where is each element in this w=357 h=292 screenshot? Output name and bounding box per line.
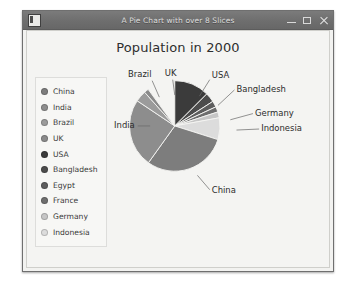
legend-swatch-icon xyxy=(41,88,48,95)
application-window: A Pie Chart with over 8 Slices Populatio… xyxy=(22,10,334,272)
legend-swatch-icon xyxy=(41,166,48,173)
pie-label-leader-line xyxy=(230,114,253,120)
legend-swatch-icon xyxy=(41,135,48,142)
close-button[interactable] xyxy=(319,16,329,25)
minimize-button[interactable] xyxy=(287,16,296,25)
legend-item-label: India xyxy=(53,103,72,112)
maximize-button[interactable] xyxy=(303,16,312,25)
pie-label-leader-line xyxy=(197,175,209,189)
window-controls xyxy=(287,11,329,29)
window-client-area: Population in 2000 ChinaIndiaBrazilUKUSA… xyxy=(26,30,330,268)
pie-slice-label: Germany xyxy=(255,108,294,118)
window-icon xyxy=(28,14,41,27)
legend-item[interactable]: Germany xyxy=(41,209,102,225)
legend-item[interactable]: Egypt xyxy=(41,178,102,194)
pie-chart-plot: BrazilUKUSABangladeshGermanyIndonesiaInd… xyxy=(111,65,327,263)
legend-item-label: China xyxy=(53,87,75,96)
pie-label-leader-line xyxy=(218,90,234,105)
legend-swatch-icon xyxy=(41,104,48,111)
legend-item-label: Bangladesh xyxy=(53,165,98,174)
chart-title: Population in 2000 xyxy=(27,40,329,55)
chart-legend: ChinaIndiaBrazilUKUSABangladeshEgyptFran… xyxy=(35,77,107,247)
pie-slice-label: Bangladesh xyxy=(236,84,285,94)
pie-slice-label: UK xyxy=(165,68,177,78)
legend-item[interactable]: France xyxy=(41,193,102,209)
legend-item[interactable]: Indonesia xyxy=(41,224,102,240)
legend-swatch-icon xyxy=(41,151,48,158)
pie-label-leader-line xyxy=(152,81,159,97)
pie-label-leader-line xyxy=(236,129,259,130)
legend-item[interactable]: Bangladesh xyxy=(41,162,102,178)
legend-item[interactable]: India xyxy=(41,100,102,116)
legend-swatch-icon xyxy=(41,119,48,126)
legend-item[interactable]: USA xyxy=(41,146,102,162)
pie-slice-label: India xyxy=(114,120,135,130)
legend-item-label: Brazil xyxy=(53,118,74,127)
pie-chart-svg: BrazilUKUSABangladeshGermanyIndonesiaInd… xyxy=(111,65,327,263)
legend-item-label: France xyxy=(53,196,78,205)
pie-slice-label: China xyxy=(212,185,236,195)
pie-slice-label: Indonesia xyxy=(261,123,302,133)
legend-item[interactable]: China xyxy=(41,84,102,100)
legend-swatch-icon xyxy=(41,229,48,236)
pie-slice-label: USA xyxy=(212,70,230,80)
legend-swatch-icon xyxy=(41,213,48,220)
legend-item-label: Germany xyxy=(53,212,88,221)
legend-item-label: Indonesia xyxy=(53,228,90,237)
legend-swatch-icon xyxy=(41,182,48,189)
legend-item-label: USA xyxy=(53,150,69,159)
legend-item-label: UK xyxy=(53,134,64,143)
legend-swatch-icon xyxy=(41,197,48,204)
legend-item[interactable]: UK xyxy=(41,131,102,147)
window-title-bar[interactable]: A Pie Chart with over 8 Slices xyxy=(23,11,333,30)
legend-item-label: Egypt xyxy=(53,181,75,190)
legend-item[interactable]: Brazil xyxy=(41,115,102,131)
pie-slice-label: Brazil xyxy=(128,69,152,79)
